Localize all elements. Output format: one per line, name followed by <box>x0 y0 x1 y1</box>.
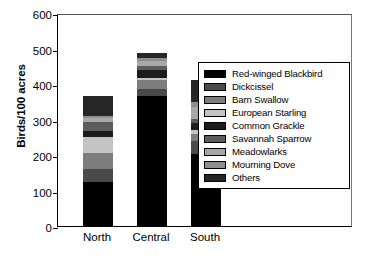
y-tick-mark <box>53 15 58 16</box>
legend-label: Dickcissel <box>232 82 273 92</box>
y-tick-mark <box>53 228 58 229</box>
legend-item[interactable]: Savannah Sparrow <box>204 132 344 145</box>
x-tick-label-central: Central <box>132 231 169 243</box>
bar-segment <box>137 80 167 89</box>
legend-label: Barn Swallow <box>232 95 288 105</box>
chart-legend: Red-winged BlackbirdDickcisselBarn Swall… <box>198 62 350 189</box>
legend-swatch-icon <box>204 161 226 169</box>
legend-item[interactable]: Barn Swallow <box>204 93 344 106</box>
legend-label: Meadowlarks <box>232 147 287 157</box>
y-tick-mark <box>53 122 58 123</box>
y-tick-label: 500 <box>14 45 58 57</box>
bar-north <box>83 96 113 226</box>
bar-segment <box>83 153 113 169</box>
legend-item[interactable]: Red-winged Blackbird <box>204 67 344 80</box>
bar-central <box>137 53 167 226</box>
legend-swatch-icon <box>204 109 226 117</box>
y-tick-label: 100 <box>14 187 58 199</box>
y-tick-mark <box>53 157 58 158</box>
legend-swatch-icon <box>204 83 226 91</box>
y-tick-label: 0 <box>14 222 58 234</box>
bar-segment <box>83 122 113 131</box>
legend-swatch-icon <box>204 122 226 130</box>
x-tick-label-north: North <box>83 231 111 243</box>
legend-label: Savannah Sparrow <box>232 134 311 144</box>
legend-item[interactable]: Common Grackle <box>204 119 344 132</box>
legend-item[interactable]: European Starling <box>204 106 344 119</box>
legend-item[interactable]: Dickcissel <box>204 80 344 93</box>
legend-swatch-icon <box>204 148 226 156</box>
legend-label: Red-winged Blackbird <box>232 69 322 79</box>
y-tick-label: 600 <box>14 9 58 21</box>
bar-segment <box>83 169 113 181</box>
y-tick-label: 400 <box>14 80 58 92</box>
legend-item[interactable]: Meadowlarks <box>204 145 344 158</box>
chart-figure: Birds/100 acres 0100200300400500600 Nort… <box>0 0 367 261</box>
y-tick-mark <box>53 51 58 52</box>
y-axis-title: Birds/100 acres <box>15 46 27 166</box>
bar-segment <box>137 89 167 96</box>
legend-label: Common Grackle <box>232 121 305 131</box>
y-tick-mark <box>53 86 58 87</box>
legend-swatch-icon <box>204 135 226 143</box>
y-tick-label: 300 <box>14 116 58 128</box>
legend-item[interactable]: Others <box>204 171 344 184</box>
legend-item[interactable]: Mourning Dove <box>204 158 344 171</box>
legend-label: Mourning Dove <box>232 160 295 170</box>
x-tick-label-south: South <box>190 231 220 243</box>
bar-segment <box>83 182 113 226</box>
bar-segment <box>137 70 167 78</box>
bar-segment <box>83 96 113 116</box>
bar-segment <box>137 96 167 226</box>
y-tick-mark <box>53 193 58 194</box>
legend-swatch-icon <box>204 174 226 182</box>
legend-swatch-icon <box>204 96 226 104</box>
legend-label: European Starling <box>232 108 306 118</box>
y-tick-label: 200 <box>14 151 58 163</box>
legend-swatch-icon <box>204 70 226 78</box>
legend-label: Others <box>232 173 260 183</box>
bar-segment <box>83 137 113 153</box>
